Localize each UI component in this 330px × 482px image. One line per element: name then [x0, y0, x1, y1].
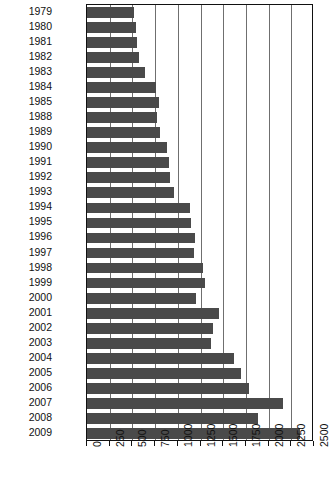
x-axis-tick-label: 500	[136, 429, 148, 447]
x-axis-tick-label: 1250	[205, 424, 217, 447]
bar-row	[87, 276, 312, 291]
bar	[87, 37, 137, 48]
bar	[87, 82, 156, 93]
y-axis-tick-label: 1983	[0, 64, 56, 79]
y-axis-tick-label: 1991	[0, 154, 56, 169]
y-axis-labels: 1979198019811982198319841985198819891990…	[0, 4, 56, 440]
bar-row	[87, 65, 312, 80]
y-axis-tick-label: 2000	[0, 290, 56, 305]
bar-row	[87, 185, 312, 200]
bar-row	[87, 246, 312, 261]
y-axis-tick-label: 2006	[0, 380, 56, 395]
y-axis-tick-label: 1997	[0, 245, 56, 260]
y-axis-tick-label: 1996	[0, 229, 56, 244]
bar	[87, 157, 169, 168]
x-axis-tick-label: 0	[91, 441, 103, 447]
x-axis-tick	[177, 441, 178, 446]
y-axis-tick-label: 1992	[0, 169, 56, 184]
bar-row	[87, 140, 312, 155]
y-axis-tick-label: 1994	[0, 199, 56, 214]
bar	[87, 142, 167, 153]
x-axis-tick-label: 2000	[273, 424, 285, 447]
y-axis-tick-label: 1990	[0, 139, 56, 154]
y-axis-tick-label: 2001	[0, 305, 56, 320]
bar	[87, 398, 283, 409]
y-axis-tick-label: 1979	[0, 4, 56, 19]
x-axis-tick	[154, 441, 155, 446]
bar-row	[87, 306, 312, 321]
bar-row	[87, 261, 312, 276]
bar	[87, 338, 211, 349]
bar-row	[87, 351, 312, 366]
bar	[87, 52, 139, 63]
bar-row	[87, 215, 312, 230]
bar	[87, 293, 196, 304]
bar-row	[87, 230, 312, 245]
bar	[87, 308, 219, 319]
bar-row	[87, 5, 312, 20]
bar-row	[87, 396, 312, 411]
y-axis-tick-label: 2002	[0, 320, 56, 335]
bar	[87, 67, 145, 78]
bar-row	[87, 366, 312, 381]
bar	[87, 187, 174, 198]
x-axis-tick-label: 1500	[227, 424, 239, 447]
bar	[87, 383, 249, 394]
y-axis-tick-label: 2005	[0, 365, 56, 380]
bar	[87, 97, 159, 108]
x-axis-tick	[313, 441, 314, 446]
y-axis-tick-label: 1980	[0, 19, 56, 34]
x-axis-tick	[131, 441, 132, 446]
bar	[87, 248, 194, 259]
y-axis-tick-label: 2007	[0, 395, 56, 410]
x-axis-tick-label: 1000	[182, 424, 194, 447]
y-axis-tick-label: 1981	[0, 34, 56, 49]
bar-row	[87, 20, 312, 35]
bar-row	[87, 170, 312, 185]
x-axis-tick-label: 2500	[318, 424, 330, 447]
bar	[87, 112, 157, 123]
bar-row	[87, 336, 312, 351]
bar	[87, 368, 241, 379]
bar	[87, 22, 136, 33]
bar	[87, 413, 258, 424]
y-axis-tick-label: 2009	[0, 425, 56, 440]
y-axis-tick-label: 2003	[0, 335, 56, 350]
x-axis-tick	[86, 441, 87, 446]
bar-row	[87, 35, 312, 50]
bar	[87, 7, 134, 18]
x-axis-tick	[109, 441, 110, 446]
y-axis-tick-label: 1988	[0, 109, 56, 124]
y-axis-tick-label: 1995	[0, 214, 56, 229]
bar	[87, 353, 234, 364]
bar	[87, 278, 205, 289]
bar-row	[87, 95, 312, 110]
bar	[87, 203, 190, 214]
x-axis-tick	[200, 441, 201, 446]
bar	[87, 233, 195, 244]
y-axis-tick-label: 2004	[0, 350, 56, 365]
x-axis-tick	[290, 441, 291, 446]
bar	[87, 263, 203, 274]
bar	[87, 323, 213, 334]
bar	[87, 127, 160, 138]
bar-row	[87, 125, 312, 140]
x-axis-tick	[268, 441, 269, 446]
y-axis-tick-label: 1982	[0, 49, 56, 64]
y-axis-tick-label: 1984	[0, 79, 56, 94]
y-axis-tick-label: 1993	[0, 184, 56, 199]
y-axis-tick-label: 1989	[0, 124, 56, 139]
x-axis-tick-label: 250	[114, 429, 126, 447]
x-axis-tick-label: 750	[159, 429, 171, 447]
y-axis-tick-label: 1985	[0, 94, 56, 109]
plot-area	[86, 4, 313, 440]
y-axis-tick-label: 1998	[0, 260, 56, 275]
bar-row	[87, 155, 312, 170]
bar-row	[87, 381, 312, 396]
bar-row	[87, 50, 312, 65]
bar-row	[87, 291, 312, 306]
bar	[87, 172, 170, 183]
x-axis-tick-label: 1750	[250, 424, 262, 447]
bar-row	[87, 110, 312, 125]
